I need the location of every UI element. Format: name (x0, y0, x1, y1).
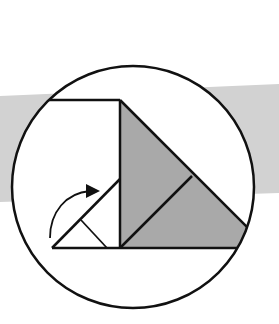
origami-diagram (0, 0, 279, 324)
